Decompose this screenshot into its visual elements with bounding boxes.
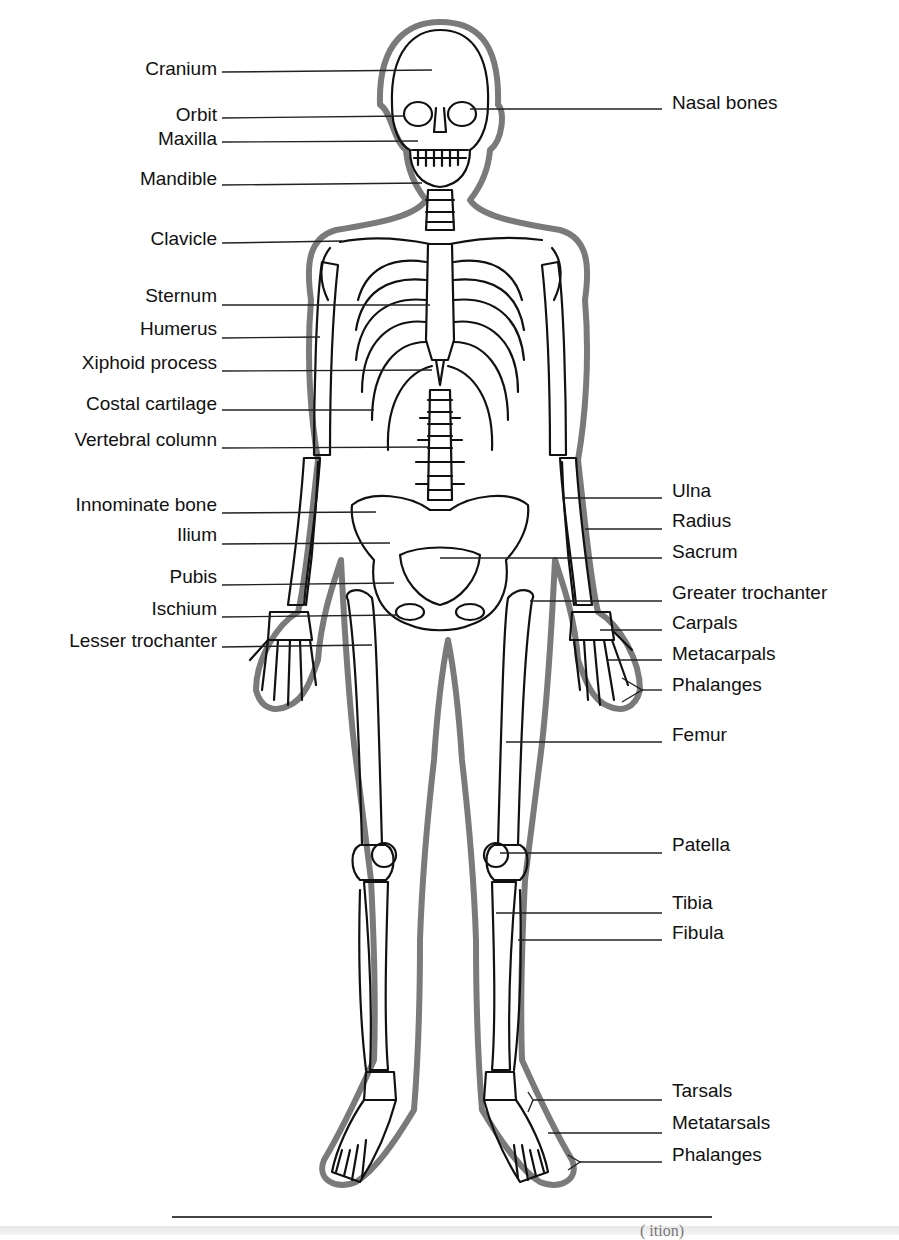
label-tarsals: Tarsals [672, 1080, 732, 1102]
label-phalanges-hand: Phalanges [672, 674, 762, 696]
label-femur: Femur [672, 724, 727, 746]
caption-rule [172, 1216, 712, 1218]
label-maxilla: Maxilla [158, 128, 217, 150]
label-cranium: Cranium [145, 58, 217, 80]
label-mandible: Mandible [140, 168, 217, 190]
label-ilium: Ilium [177, 524, 217, 546]
label-lesser-trochanter: Lesser trochanter [69, 630, 217, 652]
label-metacarpals: Metacarpals [672, 643, 776, 665]
label-sacrum: Sacrum [672, 541, 737, 563]
label-fibula: Fibula [672, 922, 724, 944]
label-tibia: Tibia [672, 892, 712, 914]
label-metatarsals: Metatarsals [672, 1112, 770, 1134]
label-humerus: Humerus [140, 318, 217, 340]
skeleton-lines [250, 30, 632, 1182]
label-vertebral-column: Vertebral column [74, 429, 217, 451]
label-costal-cartilage: Costal cartilage [86, 393, 217, 415]
label-radius: Radius [672, 510, 731, 532]
label-ischium: Ischium [152, 598, 217, 620]
label-xiphoid-process: Xiphoid process [82, 352, 217, 374]
label-patella: Patella [672, 834, 730, 856]
label-ulna: Ulna [672, 480, 711, 502]
label-clavicle: Clavicle [150, 228, 217, 250]
label-carpals: Carpals [672, 612, 737, 634]
label-sternum: Sternum [145, 285, 217, 307]
page-edge [0, 1226, 899, 1235]
label-pubis: Pubis [169, 566, 217, 588]
caption-partial: ( ition) [640, 1222, 684, 1240]
label-phalanges-foot: Phalanges [672, 1144, 762, 1166]
label-nasal-bones: Nasal bones [672, 92, 778, 114]
label-greater-trochanter: Greater trochanter [672, 582, 827, 604]
label-orbit: Orbit [176, 104, 217, 126]
label-innominate-bone: Innominate bone [75, 494, 217, 516]
